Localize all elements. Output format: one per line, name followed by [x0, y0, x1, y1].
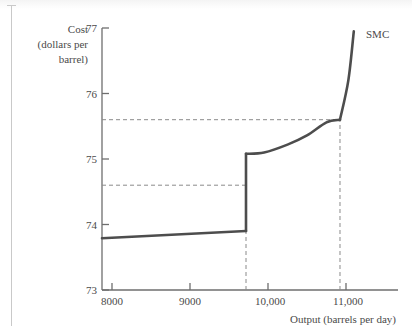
guide-lines — [102, 120, 340, 290]
y-tick-label-76: 76 — [86, 88, 98, 100]
series-label-smc: SMC — [366, 28, 389, 40]
y-axis-title-line-3: barrel) — [59, 53, 89, 66]
y-axis — [102, 28, 109, 290]
y-tick-label-75: 75 — [86, 153, 98, 165]
x-axis-title: Output (barrels per day) — [290, 313, 396, 326]
figure-page: 77 76 75 74 73 8000 9000 10,000 11,000 C… — [0, 0, 412, 333]
smc-upper-branch — [246, 120, 340, 154]
y-axis-title-line-2: (dollars per — [38, 38, 89, 51]
smc-curve — [102, 31, 354, 238]
x-tick-label-8000: 8000 — [101, 295, 124, 307]
x-tick-labels: 8000 9000 10,000 11,000 — [101, 295, 363, 307]
x-tick-label-11000: 11,000 — [333, 295, 363, 307]
y-axis-title-line-1: Cost — [68, 23, 88, 35]
smc-steep-rise — [340, 31, 354, 119]
y-tick-label-74: 74 — [86, 219, 98, 231]
smc-cost-chart: 77 76 75 74 73 8000 9000 10,000 11,000 C… — [0, 0, 412, 333]
x-tick-label-10000: 10,000 — [255, 295, 286, 307]
x-axis — [102, 283, 398, 290]
y-tick-label-73: 73 — [86, 284, 98, 296]
y-axis-title: Cost (dollars per barrel) — [38, 23, 89, 66]
smc-lower-branch — [102, 231, 246, 238]
x-tick-label-9000: 9000 — [179, 295, 202, 307]
